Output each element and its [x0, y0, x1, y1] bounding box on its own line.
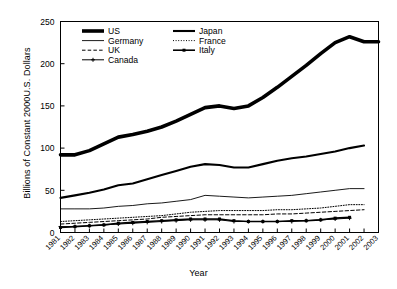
- legend-item-france: France: [173, 36, 226, 46]
- x-tick-label: 2002: [347, 234, 365, 252]
- legend-label: Canada: [108, 55, 138, 65]
- x-tick-label: 1992: [203, 234, 221, 252]
- legend-swatch-marker: [91, 58, 95, 62]
- x-tick-label: 1982: [58, 234, 76, 252]
- legend-item-japan: Japan: [173, 26, 223, 36]
- series-line-uk: [61, 210, 365, 224]
- legend-item-us: US: [82, 26, 120, 36]
- series-line-japan: [61, 146, 365, 198]
- legend-label: US: [108, 26, 120, 36]
- x-tick-label: 1984: [87, 234, 105, 252]
- plot-area: 050100150200250 198119821983198419851986…: [0, 0, 397, 289]
- data-series: [59, 37, 379, 229]
- x-tick-label: 1985: [101, 234, 119, 252]
- x-tick-label: 1983: [73, 234, 91, 252]
- x-tick-label: 2001: [333, 234, 351, 252]
- chart-figure: Billions of Constant 2000U.S. Dollars Ye…: [0, 0, 397, 289]
- legend-label: Japan: [199, 26, 223, 36]
- legend-item-italy: Italy: [173, 45, 215, 55]
- legend-label: Germany: [108, 36, 144, 46]
- y-tick-label: 100: [40, 143, 54, 153]
- x-tick-label: 1990: [174, 234, 192, 252]
- y-tick-label: 200: [40, 59, 54, 69]
- x-tick-label: 1995: [246, 234, 264, 252]
- chart-legend: USGermanyUKCanadaJapanFranceItaly: [82, 26, 226, 65]
- legend-label: France: [199, 36, 226, 46]
- x-tick-label: 1988: [145, 234, 163, 252]
- x-tick-label: 1993: [217, 234, 235, 252]
- legend-item-germany: Germany: [82, 36, 144, 46]
- x-tick-label: 1994: [232, 234, 250, 252]
- x-tick-label: 1998: [289, 234, 307, 252]
- legend-swatch-marker: [183, 49, 186, 52]
- y-tick-label: 50: [45, 186, 55, 196]
- x-tick-label: 1999: [304, 234, 322, 252]
- x-tick-label: 1997: [275, 234, 293, 252]
- x-tick-label: 2003: [362, 234, 380, 252]
- y-tick-label: 150: [40, 101, 54, 111]
- x-tick-label: 1986: [116, 234, 134, 252]
- x-tick-label: 1981: [44, 234, 62, 252]
- legend-label: UK: [108, 45, 120, 55]
- y-tick-label: 250: [40, 17, 54, 27]
- legend-label: Italy: [199, 45, 215, 55]
- x-tick-label: 1987: [130, 234, 148, 252]
- x-tick-label: 2000: [318, 234, 336, 252]
- x-tick-label: 1991: [188, 234, 206, 252]
- legend-item-uk: UK: [82, 45, 120, 55]
- series-line-germany: [61, 189, 365, 209]
- x-tick-label: 1996: [260, 234, 278, 252]
- legend-item-canada: Canada: [82, 55, 138, 65]
- x-tick-label: 1989: [159, 234, 177, 252]
